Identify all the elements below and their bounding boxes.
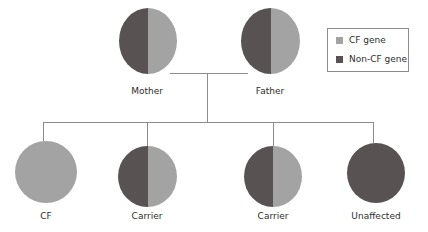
child-carrier-2-label: Carrier	[233, 211, 313, 222]
mother-label: Mother	[107, 86, 187, 97]
child-carrier-1-label: Carrier	[107, 211, 187, 222]
child-drop-line-carrier-1	[147, 122, 148, 146]
cf-gene-half	[148, 8, 177, 74]
child-unaffected-label: Unaffected	[336, 211, 416, 222]
child-cf-label: CF	[6, 211, 86, 222]
sibship-line	[43, 122, 374, 123]
child-drop-line-carrier-2	[273, 122, 274, 146]
legend-label-non-cf-gene: Non-CF gene	[349, 54, 407, 64]
cf-gene-half	[273, 146, 302, 207]
cf-gene-swatch-icon	[336, 37, 343, 44]
descent-line	[207, 73, 208, 122]
father-label: Father	[230, 86, 310, 97]
legend-label-cf-gene: CF gene	[349, 35, 386, 45]
mother-circle	[119, 8, 177, 74]
child-drop-line-unaffected	[373, 122, 374, 143]
non-cf-gene-half	[119, 8, 148, 74]
legend: CF gene Non-CF gene	[327, 28, 409, 72]
child-cf-circle	[15, 141, 77, 203]
child-unaffected-circle	[347, 143, 405, 203]
child-carrier-1-circle	[118, 146, 177, 207]
legend-item-cf-gene: CF gene	[336, 35, 386, 45]
non-cf-gene-half	[244, 146, 273, 207]
cf-gene-half	[271, 8, 301, 74]
father-circle	[241, 8, 300, 74]
child-carrier-2-circle	[244, 146, 302, 207]
cf-gene-half	[148, 146, 178, 207]
non-cf-gene-half	[241, 8, 271, 74]
non-cf-gene-half	[118, 146, 148, 207]
parents-connector-line	[170, 73, 248, 74]
legend-item-non-cf-gene: Non-CF gene	[336, 54, 407, 64]
child-drop-line-cf	[43, 122, 44, 141]
non-cf-gene-swatch-icon	[336, 56, 343, 63]
